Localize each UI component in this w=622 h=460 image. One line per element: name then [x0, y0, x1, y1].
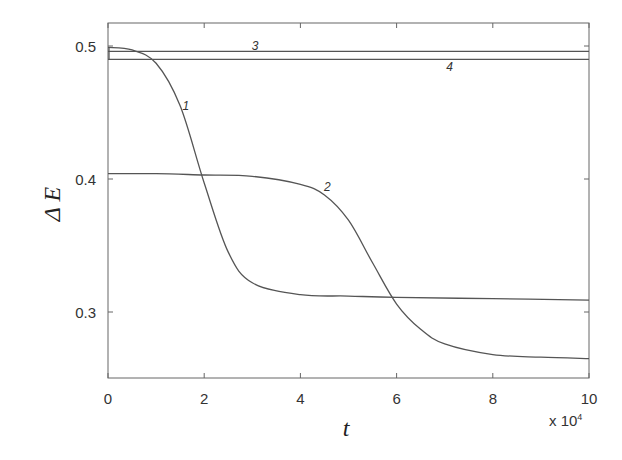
- x-axis-label: t: [343, 415, 351, 441]
- curve-label-2: 2: [323, 180, 331, 194]
- x-tick-label: 2: [200, 390, 208, 407]
- x-tick-label: 4: [296, 390, 304, 407]
- y-axis-label: Δ E: [39, 187, 65, 223]
- series-2-line: [108, 174, 589, 359]
- line-chart: 0246810 0.30.40.5 1234 Δ E t x 104: [0, 0, 622, 460]
- axis-ticks: [108, 23, 589, 378]
- x-tick-label: 10: [581, 390, 598, 407]
- x-tick-label: 8: [489, 390, 497, 407]
- x-tick-label: 6: [392, 390, 400, 407]
- curve-label-3: 3: [252, 39, 259, 53]
- curve-label-4: 4: [446, 60, 453, 74]
- y-tick-labels: 0.30.40.5: [75, 38, 96, 321]
- data-series: [108, 47, 589, 358]
- curve-label-1: 1: [183, 99, 190, 113]
- x-tick-labels: 0246810: [104, 390, 598, 407]
- x-tick-label: 0: [104, 390, 112, 407]
- y-tick-label: 0.4: [75, 171, 96, 188]
- x-multiplier: x 104: [549, 412, 582, 429]
- curve-labels: 1234: [183, 39, 454, 194]
- y-tick-label: 0.3: [75, 304, 96, 321]
- y-tick-label: 0.5: [75, 38, 96, 55]
- plot-frame: [108, 23, 589, 378]
